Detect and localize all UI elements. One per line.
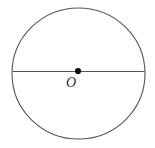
center-point-dot (75, 68, 81, 74)
geometry-figure: O (0, 0, 155, 148)
center-point-label: O (66, 76, 76, 90)
circle-diagram-svg (0, 0, 155, 148)
